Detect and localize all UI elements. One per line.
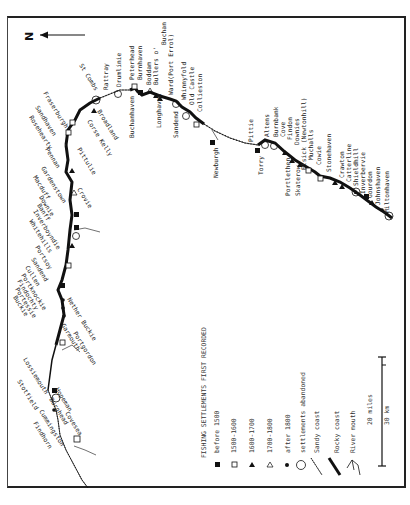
place-label: Shieldhill (352, 148, 359, 186)
place-label: Buchan (160, 22, 167, 45)
place-label: Altens (263, 114, 270, 137)
legend-item-1700-1800: 1700-1800 (267, 418, 274, 453)
legend-item-1600-1700: 1600-1700 (249, 418, 256, 453)
filled-triangle-icon (249, 462, 255, 467)
place-label: Bullers o' (152, 47, 159, 85)
place-label: Elsick (Newtonhill) (300, 97, 307, 170)
place-label: Inverbervie (359, 152, 366, 194)
legend-title: FISHING SETTLEMENTS FIRST RECORDED (201, 327, 208, 458)
place-label: Ward(Port Errol) (167, 34, 174, 95)
open-square-icon (232, 462, 237, 467)
place-label: Collieston (196, 74, 203, 112)
place-label: Burnhaven (136, 46, 143, 80)
place-label: Rattray (102, 63, 109, 90)
place-label: Whinnyfold (180, 62, 187, 100)
place-label: Findon (286, 117, 293, 140)
place-label: Crawton (338, 151, 345, 178)
place-label: Cowie (315, 146, 322, 165)
place-label: Miltonhaven (383, 171, 390, 213)
place-label: Stonehaven (325, 134, 332, 172)
place-label: Portlethen (284, 158, 291, 196)
place-label: Old Castle (188, 67, 195, 105)
rocky-coast-icon (329, 458, 340, 475)
place-label: Johnshaven (374, 167, 381, 205)
place-label: Buchanhaven (128, 96, 135, 138)
legend-item-river-mouth: River mouth (350, 411, 357, 453)
filled-square-icon (215, 462, 220, 467)
legend-item-sandy-coast: Sandy coast (314, 411, 321, 453)
place-label: Torry (257, 156, 264, 175)
place-label: Gourdon (366, 171, 373, 198)
legend-item-1500-1600: 1500-1600 (231, 418, 238, 453)
place-label: Muchalls (307, 129, 314, 160)
legend-item-before-1500: before 1500 (214, 411, 221, 453)
scale-km-label: 30 km (384, 406, 391, 425)
legend-symbols (215, 458, 360, 475)
north-label: N (23, 32, 36, 41)
place-label: Drumlinie (115, 53, 122, 87)
river-mouth-icon (347, 460, 360, 475)
scale-miles-label: 20 miles (367, 394, 374, 425)
filled-dot-icon (285, 463, 289, 467)
place-label: Newburgh (212, 147, 219, 178)
place-label: Catterline (345, 144, 352, 182)
place-label: Peterhead (128, 46, 135, 80)
place-label: Skaterow (294, 165, 301, 196)
place-label: Downies (293, 118, 300, 145)
place-label: Boddam (145, 62, 152, 85)
open-triangle-icon (267, 462, 273, 467)
legend-item-after-1800: after 1800 (285, 415, 292, 453)
legend-item-abandoned: settlements abandoned (300, 372, 307, 453)
north-arrow-icon (40, 32, 85, 39)
legend-item-rocky-coast: Rocky coast (334, 411, 341, 453)
place-label: Longhaven (155, 94, 162, 128)
place-label: Pittie (247, 119, 254, 142)
place-label: Sandend (172, 111, 179, 138)
open-circle-icon (297, 461, 306, 470)
place-label: Burnbank (272, 106, 279, 137)
place-label: Cove (279, 122, 286, 137)
